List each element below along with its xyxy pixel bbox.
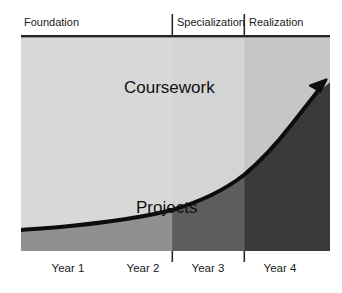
phase-tick-2-bottom (244, 251, 246, 262)
axis-label-year-4: Year 4 (250, 262, 310, 275)
phase-tick-1-bottom (172, 251, 174, 262)
axis-label-year-3: Year 3 (178, 262, 238, 275)
phase-tick-1-top (172, 14, 174, 36)
axis-label-year-2: Year 2 (113, 262, 173, 275)
phase-label-specialization: Specialization (177, 16, 245, 28)
chart-canvas (0, 0, 342, 293)
curriculum-balance-diagram: Foundation Specialization Realization Co… (0, 0, 342, 293)
phase-label-realization: Realization (249, 16, 303, 28)
top-rule (21, 35, 330, 38)
phase-label-foundation: Foundation (24, 16, 79, 28)
axis-label-year-1: Year 1 (38, 262, 98, 275)
